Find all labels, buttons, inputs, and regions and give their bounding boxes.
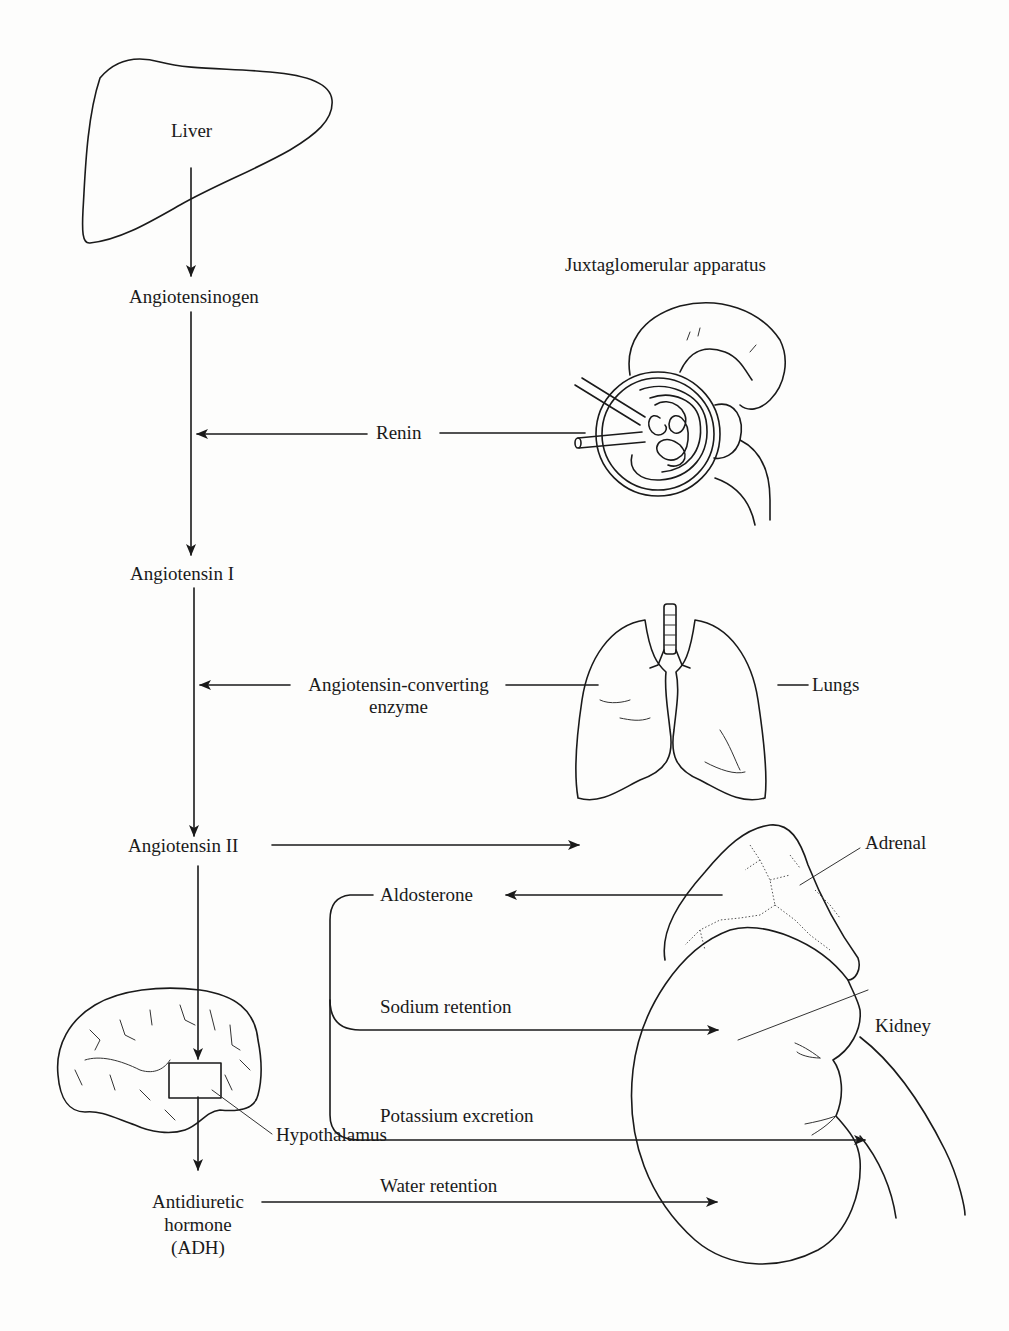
diagram-lines (0, 0, 1009, 1331)
lungs-label: Lungs (812, 674, 860, 696)
adh-label-line3: (ADH) (138, 1237, 258, 1259)
hypothalamus-pointer-line (212, 1090, 272, 1134)
angiotensin-1-label: Angiotensin I (130, 563, 234, 585)
water-retention-label: Water retention (380, 1175, 497, 1197)
kidney-pointer-line (738, 990, 868, 1040)
brain-icon (58, 988, 272, 1134)
angiotensin-2-label: Angiotensin II (128, 835, 238, 857)
renin-label: Renin (376, 422, 421, 444)
adh-label-line2: hormone (138, 1214, 258, 1236)
hypothalamus-label: Hypothalamus (276, 1124, 387, 1146)
sodium-retention-label: Sodium retention (380, 996, 511, 1018)
adrenal-label: Adrenal (865, 832, 926, 854)
potassium-excretion-label: Potassium excretion (380, 1105, 534, 1127)
hypothalamus-box (169, 1063, 221, 1098)
kidney-icon (632, 927, 965, 1263)
lungs-icon (576, 604, 766, 800)
juxtaglomerular-apparatus-icon (575, 303, 785, 525)
liver-label: Liver (171, 120, 212, 142)
juxtaglomerular-label: Juxtaglomerular apparatus (565, 254, 766, 276)
kidney-label: Kidney (875, 1015, 931, 1037)
angiotensinogen-label: Angiotensinogen (129, 286, 259, 308)
ace-label-line2: enzyme (296, 696, 501, 718)
liver-icon (83, 59, 333, 243)
adrenal-gland-icon (664, 825, 860, 980)
ace-label-line1: Angiotensin-converting (296, 674, 501, 696)
aldosterone-label: Aldosterone (380, 884, 473, 906)
adh-label-line1: Antidiuretic (138, 1191, 258, 1213)
raas-diagram: Liver Angiotensinogen Juxtaglomerular ap… (0, 0, 1009, 1331)
